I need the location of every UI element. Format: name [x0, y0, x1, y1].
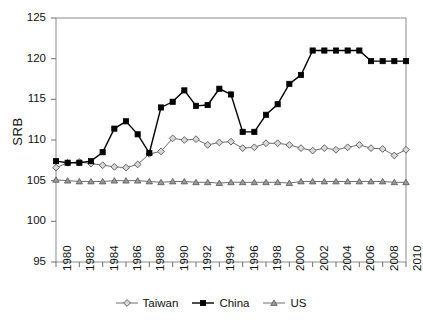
chart-legend: TaiwanChinaUS: [0, 297, 421, 309]
x-tick-label: 1996: [248, 245, 260, 271]
legend-label: China: [219, 297, 249, 309]
legend-item-us[interactable]: US: [262, 297, 306, 309]
x-tick-label: 1988: [154, 245, 166, 271]
legend-marker-square-filled-icon: [191, 297, 215, 309]
legend-label: US: [290, 297, 306, 309]
x-tick-label: 2008: [388, 245, 400, 271]
series-china: [53, 48, 408, 165]
x-tick-label: 1986: [131, 245, 143, 271]
x-tick-label: 1984: [108, 245, 120, 271]
x-tick-label: 1980: [61, 245, 73, 271]
y-tick-label: 110: [16, 133, 46, 145]
x-tick-label: 1990: [178, 245, 190, 271]
x-tick-label: 2004: [341, 245, 353, 271]
x-tick-label: 2000: [294, 245, 306, 271]
y-axis-title: SRB: [10, 102, 25, 162]
y-tick-label: 95: [16, 255, 46, 267]
legend-label: Taiwan: [143, 297, 179, 309]
x-tick-label: 2006: [364, 245, 376, 271]
y-tick-label: 120: [16, 52, 46, 64]
x-tick-label: 1982: [84, 245, 96, 271]
legend-marker-triangle-icon: [262, 297, 286, 309]
y-tick-label: 115: [16, 92, 46, 104]
x-tick-label: 1994: [224, 245, 236, 271]
y-tick-label: 100: [16, 214, 46, 226]
y-tick-label: 125: [16, 11, 46, 23]
series-taiwan: [53, 135, 410, 171]
x-tick-label: 2010: [411, 245, 423, 271]
x-tick-label: 2002: [318, 245, 330, 271]
legend-item-taiwan[interactable]: Taiwan: [115, 297, 179, 309]
y-tick-label: 105: [16, 174, 46, 186]
series-us: [53, 177, 409, 186]
legend-marker-diamond-icon: [115, 297, 139, 309]
x-tick-label: 1992: [201, 245, 213, 271]
legend-item-china[interactable]: China: [191, 297, 249, 309]
x-tick-label: 1998: [271, 245, 283, 271]
